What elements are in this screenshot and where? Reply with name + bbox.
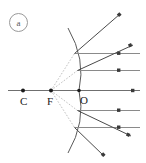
virtual-ray-F-1 <box>51 54 75 91</box>
panel-label-text: a <box>17 18 21 28</box>
virtual-ray-F-4 <box>51 91 75 128</box>
arrow-marker-incident-axis <box>131 89 134 92</box>
reflected-ray-3 <box>78 111 132 137</box>
point-C <box>21 89 25 93</box>
reflected-ray-2 <box>78 45 134 71</box>
reflected-rays-group <box>75 14 134 156</box>
reflected-ray-4 <box>75 128 105 157</box>
panel-label-badge: a <box>9 13 28 32</box>
figure-canvas: a C F O <box>0 0 146 163</box>
label-center-of-curvature: C <box>20 96 27 107</box>
label-optical-center: O <box>80 95 88 106</box>
label-focal-point: F <box>47 96 53 107</box>
arrow-marker-reflected-3 <box>126 132 131 137</box>
virtual-ray-F-2 <box>51 71 78 91</box>
point-O <box>77 89 81 93</box>
point-F <box>49 89 53 93</box>
virtual-ray-F-3 <box>51 91 78 111</box>
arrow-marker-incident-3 <box>117 109 120 112</box>
arrow-marker-incident-4 <box>117 126 120 129</box>
reflected-ray-direction-markers <box>101 12 133 157</box>
reflected-ray-1 <box>75 14 121 54</box>
arrow-marker-incident-2 <box>117 69 120 72</box>
